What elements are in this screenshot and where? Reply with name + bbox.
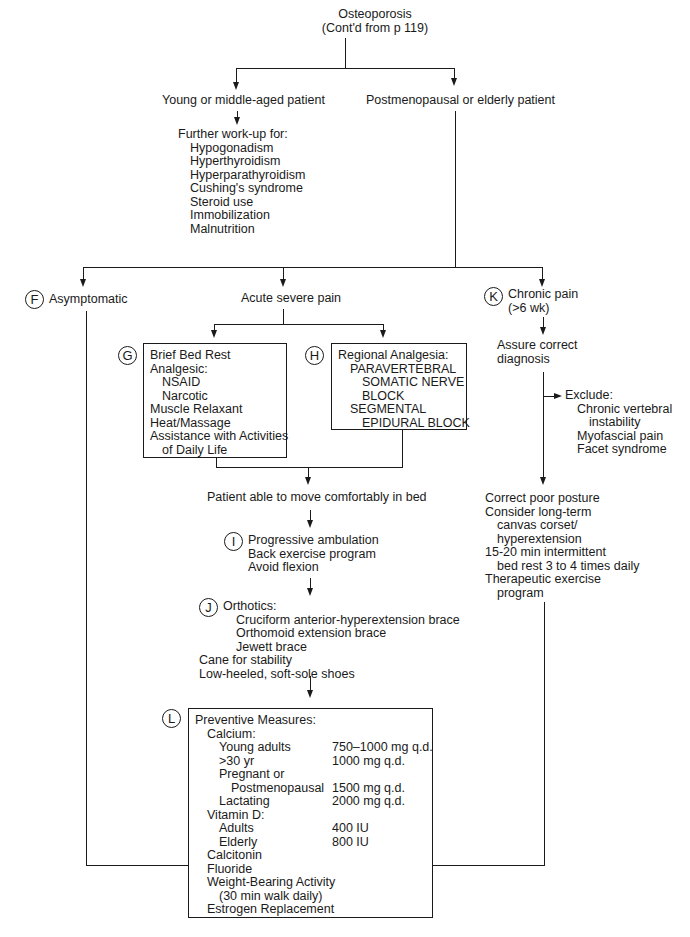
workup-item: Cushing's syndrome: [178, 182, 305, 196]
j-other: Low-heeled, soft-sole shoes: [199, 668, 460, 682]
arrow-down-icon: [307, 588, 313, 596]
chronic-item: 15-20 min intermittent: [485, 546, 639, 560]
assure-diagnosis: Assure correct diagnosis: [497, 339, 578, 366]
exclude-title: Exclude:: [565, 389, 672, 403]
arrow-down-icon: [234, 117, 240, 125]
l-calcium-title: Calcium:: [195, 728, 433, 742]
i-item: Back exercise program: [248, 548, 379, 562]
connector: [402, 429, 403, 467]
workup-item: Hyperthyroidism: [178, 155, 305, 169]
chronic-item: canvas corset/: [485, 519, 639, 533]
j-other: Cane for stability: [199, 654, 460, 668]
chronic-item: program: [485, 587, 639, 601]
arrow-down-icon: [233, 82, 239, 90]
connector: [236, 68, 455, 69]
chronic-pain-line2: (>6 wk): [508, 302, 578, 316]
h-item: SEGMENTAL: [338, 403, 470, 417]
exclude-list: Exclude: Chronic vertebral instability M…: [565, 389, 672, 457]
l-other: Estrogen Replacement: [195, 903, 433, 917]
chronic-pain-label: Chronic pain (>6 wk): [508, 288, 578, 315]
g-item: of Daily Life: [150, 444, 288, 458]
marker-h: H: [305, 346, 324, 365]
title: Osteoporosis (Cont'd from p 119): [310, 8, 440, 35]
h-regional-analgesia-box: Regional Analgesia: PARAVERTEBRAL SOMATI…: [331, 343, 467, 430]
l-preventive-measures-box: Preventive Measures: Calcium: Young adul…: [188, 708, 433, 918]
connector: [543, 396, 554, 397]
workup-title: Further work-up for:: [178, 128, 305, 142]
g-treatment-box: Brief Bed Rest Analgesic: NSAID Narcotic…: [143, 343, 287, 458]
j-brace: Cruciform anterior-hyperextension brace: [199, 614, 460, 628]
l-calcium-row: Postmenopausal1500 mg q.d.: [195, 782, 433, 796]
g-item: Muscle Relaxant: [150, 403, 288, 417]
h-item: Regional Analgesia:: [338, 349, 470, 363]
connector: [345, 38, 346, 68]
i-list: Progressive ambulation Back exercise pro…: [248, 534, 379, 575]
connector: [543, 372, 544, 479]
l-calcium-row: Pregnant or: [195, 768, 433, 782]
move-bed-label: Patient able to move comfortably in bed: [207, 491, 427, 505]
g-item: Heat/Massage: [150, 417, 288, 431]
g-item: Assistance with Activities: [150, 430, 288, 444]
arrow-down-icon: [280, 279, 286, 287]
asymptomatic-label: Asymptomatic: [49, 293, 128, 307]
connector: [455, 111, 456, 267]
h-item: BLOCK: [338, 390, 470, 404]
l-vitd-row: Elderly800 IU: [195, 836, 433, 850]
marker-k: K: [484, 287, 503, 306]
workup-item: Steroid use: [178, 196, 305, 210]
chronic-treatment-list: Correct poor posture Consider long-term …: [485, 492, 639, 600]
marker-l: L: [162, 709, 181, 728]
arrow-down-icon: [80, 279, 86, 287]
i-item: Avoid flexion: [248, 561, 379, 575]
l-calcium-row: >30 yr1000 mg q.d.: [195, 755, 433, 769]
workup-item: Hyperparathyroidism: [178, 169, 305, 183]
young-patient-label: Young or middle-aged patient: [162, 94, 325, 108]
chronic-item: bed rest 3 to 4 times daily: [485, 560, 639, 574]
connector: [214, 324, 383, 325]
g-item: NSAID: [150, 376, 288, 390]
chronic-pain-line1: Chronic pain: [508, 288, 578, 302]
assure-line2: diagnosis: [497, 353, 578, 367]
connector: [86, 311, 87, 865]
h-item: SOMATIC NERVE: [338, 376, 470, 390]
connector: [283, 309, 284, 324]
g-item: Narcotic: [150, 390, 288, 404]
l-other: Weight-Bearing Activity: [195, 876, 433, 890]
l-vitd-row: Adults400 IU: [195, 822, 433, 836]
chronic-item: Consider long-term: [485, 506, 639, 520]
arrow-down-icon: [211, 330, 217, 338]
arrow-down-icon: [305, 477, 311, 485]
exclude-item: Chronic vertebral: [565, 403, 672, 417]
l-vitd-title: Vitamin D:: [195, 809, 433, 823]
exclude-item: Facet syndrome: [565, 443, 672, 457]
arrow-down-icon: [380, 330, 386, 338]
l-other: Fluoride: [195, 863, 433, 877]
g-item: Analgesic:: [150, 363, 288, 377]
connector: [83, 267, 543, 268]
arrow-down-icon: [451, 78, 457, 86]
workup-item: Malnutrition: [178, 223, 305, 237]
connector: [216, 467, 403, 468]
j-list: Orthotics: Cruciform anterior-hyperexten…: [199, 600, 460, 681]
workup-item: Hypogonadism: [178, 142, 305, 156]
arrow-down-icon: [307, 520, 313, 528]
workup-item: Immobilization: [178, 209, 305, 223]
exclude-item: Myofascial pain: [565, 430, 672, 444]
workup-list: Further work-up for: Hypogonadism Hypert…: [178, 128, 305, 236]
exclude-item: instability: [565, 416, 672, 430]
postmenopausal-patient-label: Postmenopausal or elderly patient: [366, 94, 555, 108]
connector: [216, 457, 217, 467]
j-brace: Orthomoid extension brace: [199, 627, 460, 641]
chronic-item: Therapeutic exercise: [485, 573, 639, 587]
arrow-down-icon: [540, 327, 546, 335]
h-item: PARAVERTEBRAL: [338, 363, 470, 377]
l-calcium-row: Young adults750–1000 mg q.d.: [195, 741, 433, 755]
h-item: EPIDURAL BLOCK: [338, 417, 470, 431]
marker-f: F: [25, 290, 44, 309]
assure-line1: Assure correct: [497, 339, 578, 353]
title-line2: (Cont'd from p 119): [310, 22, 440, 36]
marker-i: I: [224, 532, 243, 551]
l-other: Calcitonin: [195, 849, 433, 863]
i-item: Progressive ambulation: [248, 534, 379, 548]
chronic-item: Correct poor posture: [485, 492, 639, 506]
